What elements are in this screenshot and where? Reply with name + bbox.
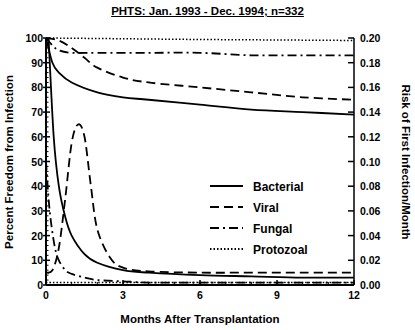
y-tick-label: 50 xyxy=(31,156,43,168)
y-tick-label: 60 xyxy=(31,131,43,143)
fungal-freedom-curve xyxy=(46,38,354,55)
y-tick-label: 100 xyxy=(25,32,43,44)
y2-tick-label: 0.04 xyxy=(360,230,381,242)
bacterial-hazard-curve xyxy=(49,38,354,278)
legend-label-protozoal: Protozoal xyxy=(253,243,308,257)
curves xyxy=(46,38,354,283)
fungal-hazard-curve xyxy=(46,162,354,283)
y2-tick-label: 0.20 xyxy=(360,32,381,44)
y2-tick-label: 0.00 xyxy=(360,279,381,291)
y2-tick-label: 0.16 xyxy=(360,81,381,93)
legend-label-fungal: Fungal xyxy=(253,222,292,236)
y-tick-label: 70 xyxy=(31,106,43,118)
x-tick-label: 9 xyxy=(274,289,280,301)
x-tick-label: 0 xyxy=(43,289,49,301)
x-tick-label: 6 xyxy=(197,289,203,301)
x-tick-label: 12 xyxy=(348,289,360,301)
y-tick-label: 90 xyxy=(31,57,43,69)
y2-tick-label: 0.06 xyxy=(360,205,381,217)
x-axis-label: Months After Transplantation xyxy=(120,313,279,325)
x-tick-label: 3 xyxy=(120,289,126,301)
y-tick-label: 10 xyxy=(31,254,43,266)
legend-label-viral: Viral xyxy=(253,201,279,215)
y-axis-label: Percent Freedom from Infection xyxy=(3,75,15,249)
y2-tick-label: 0.18 xyxy=(360,57,381,69)
legend-label-bacterial: Bacterial xyxy=(253,180,304,194)
y-tick-label: 30 xyxy=(31,205,43,217)
protozoal-freedom-curve xyxy=(46,38,354,40)
y-tick-label: 20 xyxy=(31,230,43,242)
y2-tick-label: 0.10 xyxy=(360,156,381,168)
y2-tick-label: 0.02 xyxy=(360,254,381,266)
bacterial-freedom-curve xyxy=(46,38,354,115)
y-tick-label: 80 xyxy=(31,81,43,93)
legend: BacterialViralFungalProtozoal xyxy=(210,180,308,257)
y-tick-label: 40 xyxy=(31,180,43,192)
viral-hazard-curve xyxy=(46,124,354,273)
axes: 01020304050607080901000.000.020.040.060.… xyxy=(25,32,380,301)
chart-canvas: 01020304050607080901000.000.020.040.060.… xyxy=(0,0,415,330)
y2-tick-label: 0.14 xyxy=(360,106,381,118)
y2-tick-label: 0.08 xyxy=(360,180,381,192)
y2-tick-label: 0.12 xyxy=(360,131,381,143)
y2-axis-label: Risk of First Infection/Month xyxy=(400,84,412,239)
